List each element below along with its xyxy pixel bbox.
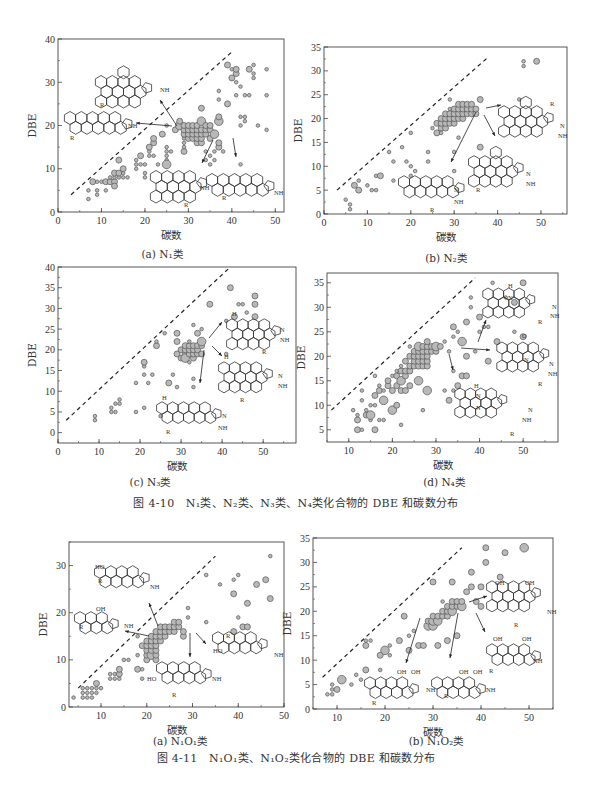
data-point bbox=[430, 579, 436, 585]
data-point bbox=[256, 124, 260, 128]
structure-label: R bbox=[262, 348, 267, 355]
data-point bbox=[348, 203, 352, 207]
data-point bbox=[204, 573, 208, 577]
data-point bbox=[176, 619, 182, 625]
data-point bbox=[221, 150, 225, 154]
arrow-head bbox=[160, 100, 163, 104]
data-point bbox=[326, 693, 330, 697]
y-tick-label: 30 bbox=[45, 303, 55, 314]
data-point bbox=[486, 325, 490, 329]
structure-label: NH bbox=[547, 608, 557, 615]
structure-label: OH bbox=[459, 668, 469, 675]
data-point bbox=[374, 188, 378, 192]
structure-label: N bbox=[280, 326, 285, 333]
pyrrole-ring bbox=[513, 163, 523, 173]
data-point bbox=[239, 163, 243, 167]
data-point bbox=[330, 693, 334, 697]
structure-label: R bbox=[98, 577, 103, 584]
arrow-head bbox=[188, 653, 191, 657]
structure-label: R bbox=[240, 396, 245, 403]
pyrrole-ring bbox=[263, 369, 273, 379]
molecular-structure: OHOHNHR bbox=[487, 635, 543, 674]
structure-label: NH bbox=[274, 651, 284, 658]
y-tick-label: 20 bbox=[314, 351, 324, 362]
data-point bbox=[372, 392, 378, 398]
data-point bbox=[165, 145, 169, 149]
hexagon-ring bbox=[490, 146, 501, 159]
data-point bbox=[237, 302, 241, 306]
data-point bbox=[218, 583, 222, 587]
data-point bbox=[468, 569, 474, 575]
structure-label: N bbox=[552, 303, 557, 310]
molecular-structure: OHOHNHR bbox=[432, 668, 496, 699]
data-point bbox=[356, 413, 360, 417]
data-point bbox=[204, 158, 208, 162]
data-point bbox=[457, 136, 461, 140]
structure-label: OH bbox=[522, 635, 532, 642]
structure-label: H bbox=[162, 394, 167, 401]
data-point bbox=[186, 606, 190, 610]
y-tick-label: 35 bbox=[300, 533, 310, 544]
data-point bbox=[414, 376, 423, 385]
data-point bbox=[134, 410, 138, 414]
data-point bbox=[463, 373, 469, 379]
y-tick-label: 0 bbox=[50, 427, 55, 438]
pyrrole-ring bbox=[409, 684, 419, 694]
y-tick-label: 10 bbox=[45, 163, 55, 174]
data-point bbox=[114, 402, 118, 406]
data-point bbox=[163, 331, 167, 335]
arrow-head bbox=[149, 603, 152, 607]
chart-title-n1o2: (b) N₁O₂类 bbox=[396, 733, 476, 748]
arrow-head bbox=[483, 320, 486, 324]
structure-label: R bbox=[444, 692, 449, 699]
x-tick-label: 40 bbox=[476, 712, 486, 723]
data-point bbox=[265, 67, 269, 71]
y-axis-label: DBE bbox=[26, 343, 38, 367]
data-point bbox=[87, 189, 91, 193]
hexagon-ring bbox=[519, 599, 530, 611]
y-tick-label: 40 bbox=[45, 262, 55, 273]
chart-svg-n1o2: 102030405005101520253035碳数DBEOHOHNHROHOH… bbox=[296, 505, 592, 745]
data-point bbox=[236, 616, 240, 620]
data-point bbox=[452, 169, 456, 173]
data-point bbox=[95, 691, 99, 695]
data-point bbox=[108, 677, 112, 681]
x-tick-label: 50 bbox=[270, 215, 280, 226]
structure-label: HO bbox=[147, 675, 157, 682]
data-point bbox=[126, 176, 130, 180]
pyrrole-ring bbox=[498, 395, 507, 405]
data-point bbox=[151, 373, 155, 377]
molecular-structure: NHR bbox=[150, 171, 209, 209]
pyrrole-ring bbox=[109, 619, 119, 629]
data-point bbox=[174, 330, 180, 336]
data-point bbox=[378, 418, 382, 422]
x-tick-label: 50 bbox=[518, 445, 528, 456]
data-point bbox=[401, 613, 407, 619]
y-tick-label: 35 bbox=[45, 282, 55, 293]
data-point bbox=[459, 599, 465, 605]
structure-label: NH bbox=[218, 424, 228, 431]
data-point bbox=[110, 410, 114, 414]
hexagon-ring bbox=[501, 175, 512, 188]
data-point bbox=[366, 411, 375, 420]
data-point bbox=[188, 360, 192, 364]
data-point bbox=[195, 330, 201, 336]
x-tick-label: 20 bbox=[380, 712, 390, 723]
hexagon-ring bbox=[173, 190, 184, 203]
data-point bbox=[356, 187, 362, 193]
chart-title-n1o1: (a) N₁O₁类 bbox=[140, 733, 220, 748]
y-axis-label: DBE bbox=[281, 612, 293, 636]
data-point bbox=[441, 600, 445, 604]
chart-svg-n3: 010203040500510152025303540碳数DBEHNNHRHNN… bbox=[0, 250, 296, 490]
data-point bbox=[90, 179, 96, 185]
x-tick-label: 10 bbox=[362, 217, 372, 228]
data-point bbox=[478, 603, 484, 609]
y-axis-label: DBE bbox=[292, 119, 304, 143]
y-tick-label: 15 bbox=[311, 137, 321, 148]
structure-label: OH bbox=[473, 668, 483, 675]
molecular-structure: HORNH bbox=[95, 563, 160, 590]
data-point bbox=[147, 154, 151, 158]
data-point bbox=[90, 686, 94, 690]
structure-label: R bbox=[514, 621, 519, 628]
chart-panel-n4: 10203040505101520253035碳数DBEHNNNHRONNNHR… bbox=[296, 250, 592, 490]
